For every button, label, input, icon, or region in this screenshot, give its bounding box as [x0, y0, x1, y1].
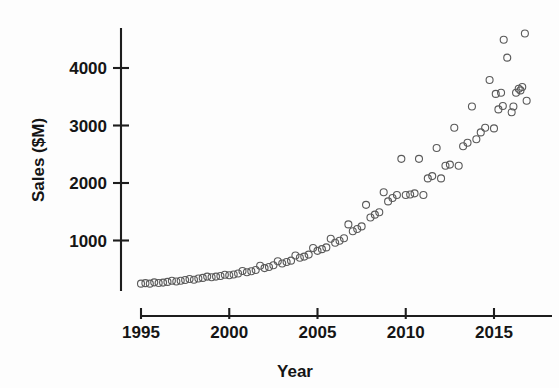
- data-point: [190, 276, 197, 283]
- y-tick-label-2000: 2000: [69, 174, 107, 193]
- data-point: [318, 246, 325, 253]
- data-point: [411, 190, 418, 197]
- y-tick-label-1000: 1000: [69, 232, 107, 251]
- y-axis: [113, 28, 129, 291]
- y-tick-label-4000: 4000: [69, 59, 107, 78]
- data-point: [164, 278, 171, 285]
- data-point: [407, 191, 414, 198]
- x-tick-label-1995: 1995: [122, 323, 160, 342]
- y-tick-label-3000: 3000: [69, 117, 107, 136]
- y-axis-title: Sales ($M): [29, 118, 48, 202]
- data-point: [265, 263, 272, 270]
- data-point: [217, 273, 224, 280]
- plot-canvas: 1000200030004000 19952000200520102015 Ye…: [0, 0, 559, 388]
- scatter-chart-figure: 1000200030004000 19952000200520102015 Ye…: [0, 0, 559, 388]
- data-point: [301, 253, 308, 260]
- data-point: [415, 155, 422, 162]
- data-point: [363, 201, 370, 208]
- data-point: [477, 129, 484, 136]
- data-point: [500, 36, 507, 43]
- data-point: [380, 189, 387, 196]
- data-point: [523, 97, 530, 104]
- data-point: [486, 77, 493, 84]
- data-point: [252, 266, 259, 273]
- x-tick-label-2015: 2015: [475, 323, 513, 342]
- data-point: [420, 192, 427, 199]
- data-point: [199, 274, 206, 281]
- data-point: [473, 136, 480, 143]
- data-point: [491, 125, 498, 132]
- y-axis-tick-labels: 1000200030004000: [69, 59, 107, 251]
- data-point: [345, 221, 352, 228]
- data-point: [398, 155, 405, 162]
- data-point: [442, 162, 449, 169]
- data-point: [332, 239, 339, 246]
- data-point: [270, 262, 277, 269]
- data-point: [455, 162, 462, 169]
- data-point: [433, 144, 440, 151]
- data-point: [438, 175, 445, 182]
- data-point: [323, 244, 330, 251]
- data-point: [468, 103, 475, 110]
- x-tick-label-2000: 2000: [210, 323, 248, 342]
- data-point: [446, 161, 453, 168]
- data-point: [305, 251, 312, 258]
- data-point-group: [138, 30, 531, 287]
- data-point: [283, 259, 290, 266]
- x-axis-title: Year: [277, 362, 313, 381]
- data-point: [451, 124, 458, 131]
- x-axis: [141, 308, 552, 319]
- data-point: [521, 30, 528, 37]
- x-tick-label-2005: 2005: [299, 323, 337, 342]
- data-point: [327, 235, 334, 242]
- data-point: [482, 124, 489, 131]
- data-point: [146, 280, 153, 287]
- data-point: [248, 268, 255, 275]
- data-point: [504, 54, 511, 61]
- x-axis-tick-labels: 19952000200520102015: [122, 323, 513, 342]
- x-tick-label-2010: 2010: [387, 323, 425, 342]
